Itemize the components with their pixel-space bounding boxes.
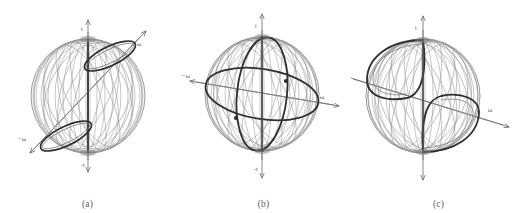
t-axis-label-a: t xyxy=(81,26,83,32)
t-axis-label-b: t xyxy=(255,23,257,29)
north-pole-marker-c xyxy=(415,37,431,43)
north-pole-marker-a xyxy=(80,36,96,42)
omega-axis-label-c: ω xyxy=(488,106,493,113)
marker-point xyxy=(234,116,238,120)
panel-b: t -t ω −ω xyxy=(176,0,351,213)
sphere-diagram-a: t -t ω −ω xyxy=(0,0,175,213)
negative-t-axis-label-a: -t xyxy=(81,162,85,168)
negative-omega-axis-label-a: −ω xyxy=(18,135,27,142)
negative-omega-axis-label-b: −ω xyxy=(182,72,191,79)
caption-b: (b) xyxy=(176,199,351,209)
negative-t-axis-label-b: -t xyxy=(254,166,258,172)
south-pole-marker-b xyxy=(254,148,270,154)
caption-a: (a) xyxy=(0,199,175,209)
sphere-diagram-b: t -t ω −ω xyxy=(176,0,351,213)
figure-container: t -t ω −ω xyxy=(0,0,526,213)
panel-a: t -t ω −ω xyxy=(0,0,175,213)
highlight-lune-lower-right-inner-c xyxy=(423,99,473,148)
south-pole-marker-a xyxy=(80,150,96,156)
omega-axis-label-b: ω xyxy=(320,93,325,100)
south-pole-marker-c xyxy=(415,149,431,155)
marker-point xyxy=(284,79,288,83)
caption-c: (c) xyxy=(351,199,526,209)
omega-axis-label-a: ω xyxy=(137,40,142,47)
north-pole-marker-b xyxy=(254,34,270,40)
t-axis-label-c: t xyxy=(415,25,417,31)
panel-c: t ω xyxy=(351,0,526,213)
sphere-diagram-c: t ω xyxy=(351,0,526,213)
